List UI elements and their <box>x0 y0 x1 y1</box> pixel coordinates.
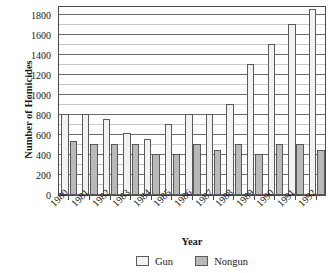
bar-nongun <box>193 144 200 196</box>
y-axis-tick-label: 0 <box>7 191 51 201</box>
bar-nongun <box>214 150 221 195</box>
y-axis-tick-label: 1000 <box>7 91 51 101</box>
bar-nongun <box>296 144 303 196</box>
y-axis-tick-labels: 020040060080010001200140016001800 <box>0 0 58 273</box>
bar-nongun <box>90 144 97 195</box>
bar-nongun <box>173 154 180 195</box>
bar-nongun <box>255 154 262 195</box>
bar-nongun <box>152 154 159 195</box>
bar-gun <box>123 133 130 195</box>
bar-gun <box>103 119 110 195</box>
bar-gun <box>226 104 233 195</box>
bar-gun <box>61 114 68 195</box>
legend-label: Nongun <box>214 256 248 267</box>
plot-area <box>58 6 326 196</box>
legend-label: Gun <box>155 256 173 267</box>
bar-gun <box>82 114 89 195</box>
y-axis-tick-label: 800 <box>7 111 51 121</box>
chart-legend: GunNongun <box>58 252 326 270</box>
legend-entry-gun[interactable]: Gun <box>136 256 173 267</box>
legend-entry-nongun[interactable]: Nongun <box>195 256 248 267</box>
y-axis-tick-label: 200 <box>7 171 51 181</box>
bar-nongun <box>70 141 77 196</box>
bar-gun <box>309 9 316 195</box>
y-axis-tick-label: 1400 <box>7 51 51 61</box>
bar-nongun <box>132 144 139 195</box>
x-axis-title: Year <box>58 236 326 247</box>
y-axis-tick-label: 400 <box>7 151 51 161</box>
bar-series-layer <box>59 7 325 195</box>
y-axis-tick-label: 600 <box>7 131 51 141</box>
legend-swatch-icon <box>195 256 208 266</box>
legend-swatch-icon <box>136 256 149 266</box>
bar-gun <box>185 114 192 196</box>
homicides-bar-chart: Number of Homicides 02004006008001000120… <box>0 0 331 273</box>
bar-nongun <box>317 150 324 195</box>
bar-gun <box>165 124 172 196</box>
bar-nongun <box>111 144 118 196</box>
y-axis-tick-label: 1600 <box>7 31 51 41</box>
bar-gun <box>247 64 254 195</box>
y-axis-tick-label: 1800 <box>7 11 51 21</box>
bar-nongun <box>276 144 283 196</box>
bar-gun <box>268 44 275 195</box>
y-axis-tick-label: 1200 <box>7 71 51 81</box>
bar-gun <box>288 24 295 195</box>
bar-nongun <box>235 144 242 196</box>
bar-gun <box>206 114 213 196</box>
